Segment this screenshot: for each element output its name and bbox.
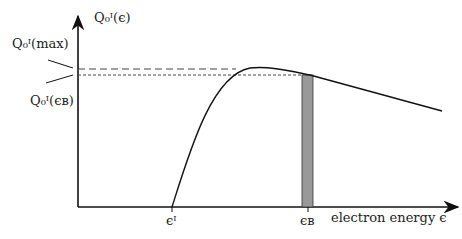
pointer-max	[48, 60, 73, 68]
pointer-eb	[46, 75, 73, 83]
y-axis-label: Q₀ᴵ(ϵ)	[94, 10, 131, 25]
x-axis-label: electron energy ϵ	[331, 210, 447, 225]
diagram: Q₀ᴵ(ϵ) Q₀ᴵ(max) Q₀ᴵ(ϵʙ) ϵᴵ ϵʙ electron e…	[0, 0, 462, 239]
plot-area	[0, 0, 462, 239]
tick-label-eb: ϵʙ	[300, 213, 315, 228]
label-qmax: Q₀ᴵ(max)	[12, 36, 69, 51]
eb-bar	[302, 75, 313, 207]
label-qeb: Q₀ᴵ(ϵʙ)	[30, 93, 74, 108]
tick-label-ei: ϵᴵ	[166, 213, 177, 228]
